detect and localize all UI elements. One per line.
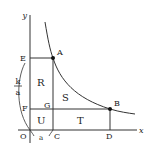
point-A-marker bbox=[51, 56, 55, 60]
bottom-brace-arc-left bbox=[30, 130, 34, 136]
region-R-label: R bbox=[37, 77, 45, 88]
region-U-label: U bbox=[37, 115, 45, 126]
label-G: G bbox=[44, 101, 50, 110]
point-B-marker bbox=[108, 107, 112, 111]
label-F: F bbox=[22, 104, 28, 113]
label-D: D bbox=[106, 132, 112, 141]
label-E: E bbox=[20, 54, 26, 63]
brace-label-k: k bbox=[16, 77, 21, 86]
hyperbola-diagram: y x O A B C D E F G R S T U k a a bbox=[0, 0, 149, 151]
bottom-brace-arc-right bbox=[49, 130, 53, 136]
x-axis-label: x bbox=[139, 126, 144, 135]
left-brace-arc bbox=[19, 63, 30, 130]
brace-label-a-left: a bbox=[16, 88, 21, 97]
label-A: A bbox=[56, 48, 63, 57]
y-axis-label: y bbox=[21, 11, 27, 20]
hyperbola-curve bbox=[45, 22, 135, 114]
brace-label-a-bottom: a bbox=[39, 134, 43, 142]
region-T-label: T bbox=[77, 115, 84, 126]
label-B: B bbox=[114, 99, 120, 108]
origin-label: O bbox=[20, 132, 27, 141]
label-C: C bbox=[54, 132, 60, 141]
diagram-stage: y x O A B C D E F G R S T U k a a bbox=[0, 0, 149, 151]
region-S-label: S bbox=[62, 92, 69, 103]
